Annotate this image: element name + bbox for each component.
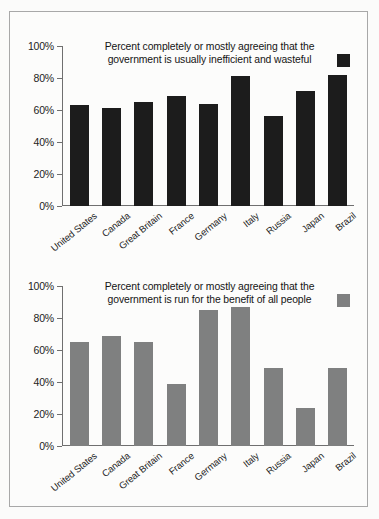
bar-slot — [289, 286, 321, 446]
bar-great-britain[interactable] — [134, 102, 153, 206]
category-label-france: France — [167, 450, 196, 477]
bar-canada[interactable] — [102, 108, 121, 206]
bar-slot — [192, 286, 224, 446]
bar-italy[interactable] — [231, 76, 250, 206]
category-label-germany: Germany — [192, 450, 229, 483]
y-tick-top-100 — [57, 46, 62, 47]
y-tick-label-bottom-20: 20% — [34, 408, 54, 420]
y-tick-bottom-80 — [57, 318, 62, 319]
y-tick-label-bottom-80: 80% — [34, 312, 54, 324]
figure-frame: Percent completely or mostly agreeing th… — [9, 11, 368, 507]
category-label-russia: Russia — [264, 450, 293, 476]
bar-slot — [63, 46, 95, 206]
y-tick-label-top-20: 20% — [34, 168, 54, 180]
bar-slot — [160, 46, 192, 206]
category-labels-top: United StatesCanadaGreat BritainFranceGe… — [63, 208, 354, 258]
y-tick-top-80 — [57, 78, 62, 79]
category-label-germany: Germany — [192, 210, 229, 243]
category-label-united-states: United States — [49, 210, 99, 254]
category-label-brazil: Brazil — [333, 450, 358, 473]
category-label-russia: Russia — [264, 210, 293, 236]
bar-slot — [95, 46, 127, 206]
y-tick-label-top-40: 40% — [34, 136, 54, 148]
bar-germany[interactable] — [199, 104, 218, 206]
category-label-brazil: Brazil — [333, 210, 358, 233]
y-tick-label-bottom-40: 40% — [34, 376, 54, 388]
category-labels-bottom: United StatesCanadaGreat BritainFranceGe… — [63, 448, 354, 498]
category-label-france: France — [167, 210, 196, 237]
y-tick-label-top-80: 80% — [34, 72, 54, 84]
y-tick-top-20 — [57, 174, 62, 175]
bar-slot — [160, 286, 192, 446]
bar-france[interactable] — [167, 96, 186, 206]
chart-panel-inefficient-wasteful: Percent completely or mostly agreeing th… — [10, 24, 369, 256]
y-tick-bottom-0 — [57, 446, 62, 447]
bar-slot — [225, 286, 257, 446]
category-label-italy: Italy — [241, 450, 261, 469]
category-label-japan: Japan — [299, 450, 326, 475]
bar-italy[interactable] — [231, 307, 250, 446]
bar-group-bottom — [63, 286, 354, 446]
plot-area-top: 100%80%60%40%20%0% — [62, 46, 354, 206]
bar-slot — [192, 46, 224, 206]
bar-slot — [63, 286, 95, 446]
bar-brazil[interactable] — [328, 75, 347, 206]
y-tick-bottom-40 — [57, 382, 62, 383]
plot-area-bottom: 100%80%60%40%20%0% — [62, 286, 354, 446]
figure-page: Percent completely or mostly agreeing th… — [0, 0, 379, 519]
bar-slot — [322, 46, 354, 206]
bar-slot — [95, 286, 127, 446]
y-tick-top-60 — [57, 110, 62, 111]
bar-germany[interactable] — [199, 310, 218, 446]
bar-slot — [257, 286, 289, 446]
bar-slot — [128, 286, 160, 446]
y-tick-bottom-20 — [57, 414, 62, 415]
bar-group-top — [63, 46, 354, 206]
bar-united-states[interactable] — [70, 105, 89, 206]
y-tick-bottom-100 — [57, 286, 62, 287]
bar-russia[interactable] — [264, 368, 283, 446]
bar-slot — [257, 46, 289, 206]
bar-great-britain[interactable] — [134, 342, 153, 446]
bar-japan[interactable] — [296, 408, 315, 446]
y-tick-label-top-0: 0% — [39, 200, 54, 212]
category-label-italy: Italy — [241, 210, 261, 229]
bar-slot — [128, 46, 160, 206]
y-tick-label-top-60: 60% — [34, 104, 54, 116]
y-tick-top-40 — [57, 142, 62, 143]
bar-france[interactable] — [167, 384, 186, 446]
y-tick-label-top-100: 100% — [28, 40, 54, 52]
y-tick-label-bottom-0: 0% — [39, 440, 54, 452]
y-tick-top-0 — [57, 206, 62, 207]
bar-japan[interactable] — [296, 91, 315, 206]
y-tick-bottom-60 — [57, 350, 62, 351]
bar-slot — [322, 286, 354, 446]
bar-russia[interactable] — [264, 116, 283, 206]
y-tick-label-bottom-60: 60% — [34, 344, 54, 356]
figure-caption — [10, 509, 260, 517]
bar-slot — [225, 46, 257, 206]
bar-canada[interactable] — [102, 336, 121, 446]
y-tick-label-bottom-100: 100% — [28, 280, 54, 292]
bar-slot — [289, 46, 321, 206]
category-label-united-states: United States — [49, 450, 99, 494]
bar-brazil[interactable] — [328, 368, 347, 446]
bar-united-states[interactable] — [70, 342, 89, 446]
chart-panel-benefit-of-all-people: Percent completely or mostly agreeing th… — [10, 264, 369, 504]
category-label-japan: Japan — [299, 210, 326, 235]
